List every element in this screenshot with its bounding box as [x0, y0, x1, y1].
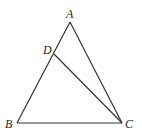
segment-ab [17, 22, 70, 123]
triangle-diagram: A D B C [0, 0, 142, 138]
label-c: C [125, 117, 134, 131]
label-b: B [5, 117, 13, 131]
segment-dc [54, 54, 122, 123]
label-a: A [65, 7, 74, 21]
segment-ac [70, 22, 122, 123]
label-d: D [42, 43, 52, 57]
